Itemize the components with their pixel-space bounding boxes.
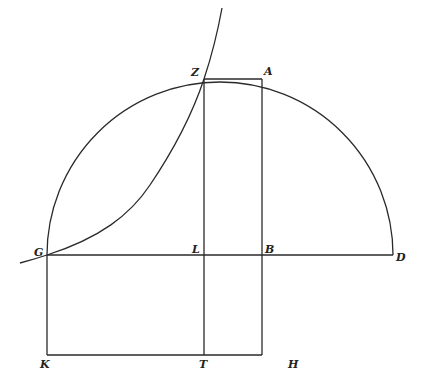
- label-H: H: [287, 358, 299, 371]
- curve-GZ: [20, 8, 222, 263]
- label-A: A: [263, 65, 273, 78]
- label-B: B: [264, 243, 274, 256]
- label-K: K: [39, 358, 50, 371]
- geometry-diagram: Z A G L B D K T H: [0, 0, 421, 384]
- label-G: G: [34, 246, 43, 259]
- label-Z: Z: [190, 66, 200, 79]
- label-D: D: [395, 251, 406, 264]
- semicircle-arc: [47, 82, 393, 255]
- label-L: L: [191, 243, 200, 256]
- label-T: T: [199, 358, 208, 371]
